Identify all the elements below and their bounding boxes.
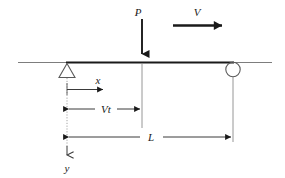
right-roller-support [226,62,240,76]
label-dimension-l: L [147,131,154,143]
label-velocity-V: V [194,6,202,18]
beam-diagram-figure: P V x y Vt L [0,0,285,178]
left-pin-support [59,64,75,78]
pin-support-triangle-icon [59,64,75,78]
label-x-axis: x [95,74,101,86]
label-load-P: P [134,6,142,18]
label-dimension-vt: Vt [101,103,112,115]
extension-lines-group [142,64,233,142]
label-y-axis: y [64,162,70,174]
roller-support-circle-icon [226,62,240,76]
